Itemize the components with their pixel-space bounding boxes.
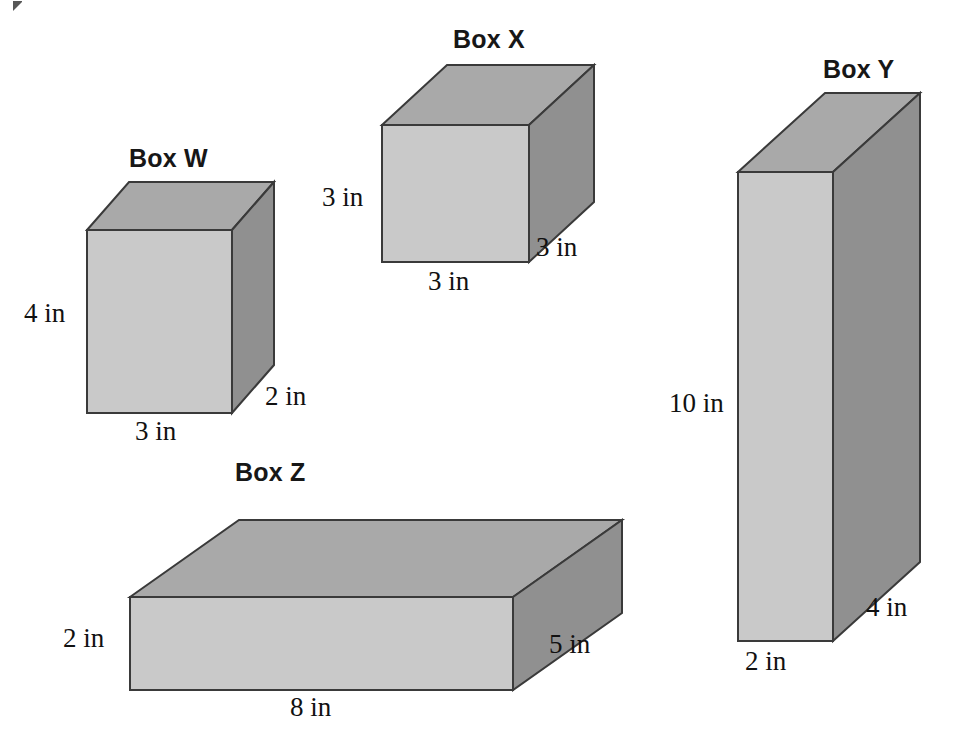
boxes-svg-canvas — [0, 0, 970, 752]
box-y-shape — [738, 93, 920, 641]
box-x-height-label: 3 in — [322, 184, 363, 211]
box-y-height-label: 10 in — [669, 390, 724, 417]
box-y-depth-label: 4 in — [866, 594, 907, 621]
box-x-front-face — [382, 125, 529, 262]
box-y-width-label: 2 in — [745, 648, 786, 675]
box-z-width-label: 8 in — [290, 694, 331, 721]
box-y-title: Box Y — [823, 57, 894, 82]
box-z-shape — [130, 520, 622, 690]
box-w-shape — [87, 182, 274, 413]
box-figures-illustration: Box W 4 in 3 in 2 in Box X 3 in 3 in 3 i… — [0, 0, 970, 752]
box-w-depth-label: 2 in — [265, 383, 306, 410]
box-z-title: Box Z — [235, 460, 305, 485]
box-x-depth-label: 3 in — [536, 234, 577, 261]
box-w-width-label: 3 in — [135, 418, 176, 445]
box-w-height-label: 4 in — [24, 300, 65, 327]
box-z-front-face — [130, 597, 513, 690]
box-x-title: Box X — [453, 27, 525, 52]
box-x-width-label: 3 in — [428, 268, 469, 295]
box-z-height-label: 2 in — [63, 625, 104, 652]
box-w-front-face — [87, 230, 232, 413]
box-y-right-face — [833, 93, 920, 641]
box-z-depth-label: 5 in — [549, 631, 590, 658]
box-y-front-face — [738, 172, 833, 641]
boxes-group — [87, 65, 920, 690]
box-w-title: Box W — [129, 146, 208, 171]
